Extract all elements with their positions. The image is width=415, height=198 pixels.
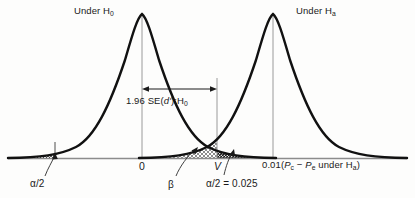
curve-label-under-ha: Under Ha [296, 6, 336, 16]
se-italic-d: d' [164, 95, 171, 106]
axis-label-effect-size: 0.01(Pc − Pe under Ha) [262, 160, 360, 170]
curve-label-under-h0: Under H0 [74, 6, 114, 16]
formula-closing: ) [357, 159, 360, 170]
formula-minus: − [294, 159, 305, 170]
formula-pe-sub: e [312, 164, 316, 171]
formula-pc: P [284, 159, 290, 170]
under-ha-subscript: a [332, 10, 336, 17]
under-h0-text: Under H [74, 5, 110, 16]
under-ha-text: Under H [296, 5, 332, 16]
annotation-alpha-half-left: α/2 [30, 178, 44, 189]
statistical-figure: Under H0 Under Ha 1.96 SE(d'):H0 0 V 0.0… [0, 0, 415, 198]
se-subscript: 0 [184, 100, 188, 107]
annotation-beta: β [168, 179, 174, 190]
se-suffix: ):H [171, 95, 184, 106]
under-h0-subscript: 0 [110, 10, 114, 17]
axis-label-critical-value: V [214, 161, 221, 173]
annotation-alpha-half-right: α/2 = 0.025 [206, 178, 258, 189]
axis-label-origin: 0 [139, 161, 145, 173]
interval-arrow-1-96-se [142, 86, 217, 92]
se-prefix: 1.96 SE( [126, 95, 164, 106]
formula-suffix: under H [316, 159, 353, 170]
leader-beta [176, 147, 198, 176]
formula-prefix: 0.01( [262, 159, 284, 170]
formula-pe: P [305, 159, 311, 170]
annotation-1-96-se: 1.96 SE(d'):H0 [126, 96, 188, 106]
formula-pc-sub: c [291, 164, 295, 171]
formula-suffix-sub: a [353, 164, 357, 171]
